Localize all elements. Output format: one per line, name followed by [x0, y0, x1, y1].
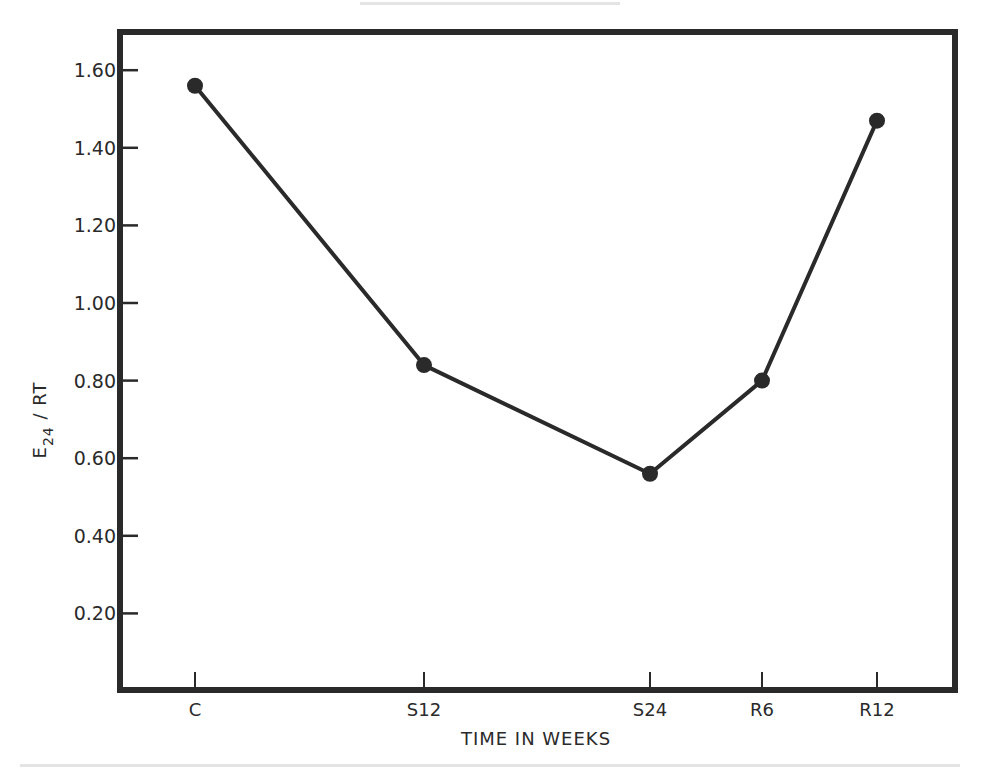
- plot-frame: [120, 32, 955, 690]
- y-tick-label: 0.20: [74, 602, 116, 624]
- scan-artifact-bottom: [20, 764, 960, 767]
- data-point-marker: [187, 78, 203, 94]
- data-point-marker: [869, 113, 885, 129]
- x-axis-ticks: CS12S24R6R12: [189, 672, 895, 720]
- line-chart: 0.200.400.600.801.001.201.401.60 CS12S24…: [0, 0, 981, 768]
- data-point-marker: [642, 466, 658, 482]
- y-tick-label: 0.40: [74, 525, 116, 547]
- y-axis-title-subscript: 24: [40, 426, 56, 446]
- svg-text:E24 / RT: E24 / RT: [29, 382, 56, 459]
- y-tick-label: 1.40: [74, 137, 116, 159]
- data-line: [195, 86, 877, 474]
- data-point-marker: [416, 357, 432, 373]
- y-tick-label: 1.60: [74, 59, 116, 81]
- y-axis-ticks: 0.200.400.600.801.001.201.401.60: [74, 59, 138, 624]
- x-tick-label: S12: [407, 699, 441, 720]
- x-tick-label: S24: [633, 699, 667, 720]
- y-tick-label: 0.60: [74, 447, 116, 469]
- data-point-marker: [754, 373, 770, 389]
- x-axis-title: TIME IN WEEKS: [460, 728, 611, 749]
- x-tick-label: R6: [750, 699, 774, 720]
- y-axis-title-rest: / RT: [29, 382, 50, 427]
- y-tick-label: 1.00: [74, 292, 116, 314]
- y-axis-title: E24 / RT: [29, 382, 56, 459]
- y-tick-label: 0.80: [74, 370, 116, 392]
- y-axis-title-main: E: [29, 446, 50, 458]
- x-tick-label: R12: [859, 699, 894, 720]
- y-tick-label: 1.20: [74, 214, 116, 236]
- x-tick-label: C: [189, 699, 202, 720]
- scan-artifact-top: [360, 2, 620, 5]
